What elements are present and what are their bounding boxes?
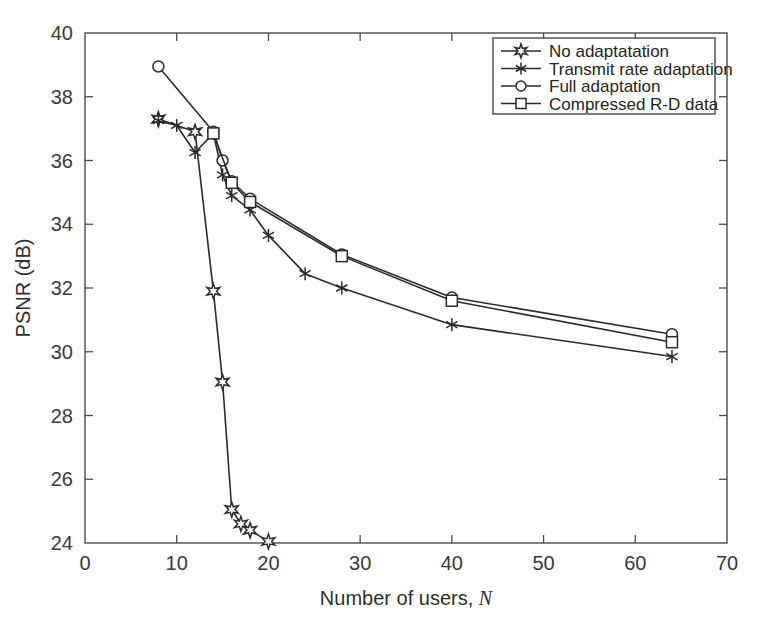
marker-hexagram-star <box>189 124 202 139</box>
marker-circle <box>516 81 526 91</box>
x-tick-label: 30 <box>349 552 371 574</box>
series-line <box>158 119 268 541</box>
series-3[interactable] <box>208 128 678 348</box>
marker-square <box>245 196 256 207</box>
y-tick-label: 36 <box>51 150 73 172</box>
series-0[interactable] <box>152 112 275 549</box>
x-axis-title: Number of users, N <box>320 587 494 609</box>
y-tick-label: 28 <box>51 405 73 427</box>
marker-hexagram-star <box>207 284 220 299</box>
y-axis-title: PSNR (dB) <box>12 239 34 338</box>
x-tick-label: 40 <box>441 552 463 574</box>
marker-square <box>226 177 237 188</box>
data-series-group <box>152 61 678 549</box>
y-tick-label: 34 <box>51 213 73 235</box>
legend-label: Transmit rate adaptation <box>549 60 733 79</box>
legend-label: Full adaptation <box>549 77 661 96</box>
x-tick-label: 60 <box>624 552 646 574</box>
legend-label: Compressed R-D data <box>549 95 719 114</box>
chart-canvas: 010203040506070242628303234363840Number … <box>0 0 765 620</box>
x-tick-label: 50 <box>532 552 554 574</box>
x-tick-label: 70 <box>716 552 738 574</box>
marker-square <box>666 337 677 348</box>
marker-square <box>516 99 526 109</box>
series-line <box>213 133 672 342</box>
psnr-vs-users-figure: 010203040506070242628303234363840Number … <box>0 0 765 620</box>
marker-hexagram-star <box>262 534 275 549</box>
x-axis-title-variable: N <box>478 587 494 609</box>
y-tick-label: 30 <box>51 341 73 363</box>
chart-legend[interactable]: No adaptatationTransmit rate adaptationF… <box>493 38 733 114</box>
x-tick-label: 20 <box>257 552 279 574</box>
x-tick-label: 0 <box>79 552 90 574</box>
legend-label: No adaptatation <box>549 42 669 61</box>
marker-hexagram-star <box>216 375 229 390</box>
y-tick-label: 24 <box>51 532 73 554</box>
marker-circle <box>153 61 164 72</box>
y-tick-label: 26 <box>51 468 73 490</box>
y-tick-label: 38 <box>51 86 73 108</box>
marker-square <box>446 295 457 306</box>
x-tick-label: 10 <box>166 552 188 574</box>
marker-square <box>336 251 347 262</box>
x-axis-title-plain: Number of users, <box>320 587 479 609</box>
marker-square <box>208 128 219 139</box>
y-tick-label: 40 <box>51 22 73 44</box>
y-tick-label: 32 <box>51 277 73 299</box>
marker-hexagram-star <box>225 502 238 517</box>
series-1[interactable] <box>153 114 678 363</box>
